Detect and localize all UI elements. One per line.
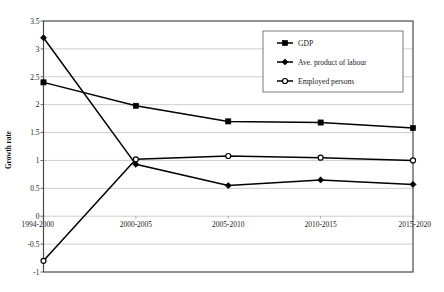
chart-legend: GDPAve. product of labourEmployed person… xyxy=(263,31,403,92)
y-axis-tick-labels: 3.532.521.510.50-0.5-1 xyxy=(28,17,44,277)
data-point-marker xyxy=(226,153,231,158)
y-tick-label: -0.5 xyxy=(28,240,40,249)
data-point-marker xyxy=(318,177,324,183)
chart-canvas: 3.532.521.510.50-0.5-1 1994-20002000-200… xyxy=(0,0,444,292)
growth-rate-line-chart: 3.532.521.510.50-0.5-1 1994-20002000-200… xyxy=(0,0,444,292)
legend-item-label: Employed persons xyxy=(298,77,354,86)
legend-item-label: GDP xyxy=(298,39,313,48)
y-axis-title: Growth rate xyxy=(5,131,13,169)
y-tick-label: 2.5 xyxy=(30,73,40,82)
y-tick-label: 1.5 xyxy=(30,128,40,137)
data-point-marker xyxy=(318,120,323,125)
data-point-marker xyxy=(133,103,138,108)
data-point-marker xyxy=(318,155,323,160)
data-point-marker xyxy=(41,80,46,85)
y-tick-label: 3 xyxy=(36,45,40,54)
series-line xyxy=(44,156,414,261)
y-tick-label: -1 xyxy=(33,268,39,277)
square-marker-icon xyxy=(282,40,287,45)
data-point-marker xyxy=(410,125,415,130)
x-tick-label: 2005-2010 xyxy=(212,220,245,229)
y-tick-label: 3.5 xyxy=(30,17,40,26)
data-point-marker xyxy=(41,258,46,263)
legend-item-label: Ave. product of labour xyxy=(298,58,367,67)
y-tick-label: 0.5 xyxy=(30,184,40,193)
y-tick-label: 2 xyxy=(36,100,40,109)
data-point-marker xyxy=(410,181,416,187)
data-point-marker xyxy=(411,158,416,163)
circle-marker-icon xyxy=(283,79,288,84)
x-tick-label: 1994-2000 xyxy=(22,220,55,229)
x-tick-label: 2000-2005 xyxy=(120,220,153,229)
x-tick-label: 2010-2015 xyxy=(304,220,337,229)
data-point-marker xyxy=(133,157,138,162)
data-point-marker xyxy=(225,182,231,188)
y-tick-label: 1 xyxy=(36,156,40,165)
data-point-marker xyxy=(226,119,231,124)
x-tick-label: 2015-2020 xyxy=(399,220,432,229)
